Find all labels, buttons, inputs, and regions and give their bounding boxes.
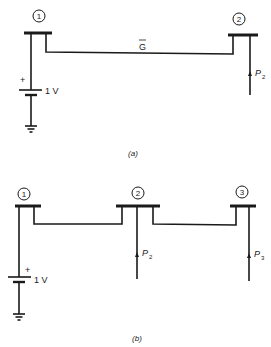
arrow-up-icon bbox=[135, 252, 139, 257]
bus-1-a: 1 bbox=[24, 10, 52, 33]
arrow-up-icon bbox=[248, 71, 252, 76]
svg-text:P: P bbox=[255, 68, 261, 78]
injection-p3-label: P 3 bbox=[254, 249, 265, 261]
bus-2-label: 2 bbox=[136, 189, 141, 198]
svg-text:3: 3 bbox=[261, 255, 265, 261]
svg-text:P: P bbox=[142, 248, 148, 258]
caption-a: (a) bbox=[128, 149, 138, 158]
svg-text:G: G bbox=[139, 42, 146, 52]
bus-1-label: 1 bbox=[22, 190, 27, 199]
battery-voltage-label: 1 V bbox=[34, 275, 48, 285]
ground-icon bbox=[13, 314, 25, 320]
panel-b: 1 + 1 V 2 P 2 bbox=[8, 186, 265, 343]
battery-plus-sign: + bbox=[25, 265, 30, 275]
caption-b: (b) bbox=[132, 334, 142, 343]
injection-p2-label: P 2 bbox=[255, 68, 266, 80]
panel-a: 1 + 1 V G 2 bbox=[19, 10, 266, 158]
conductance-label: G bbox=[139, 40, 146, 52]
bus-3-b: 3 bbox=[230, 186, 256, 206]
injection-p2-label: P 2 bbox=[142, 248, 153, 260]
bus-2-b: 2 bbox=[116, 187, 160, 206]
bus-1-b: 1 bbox=[15, 188, 41, 206]
svg-text:2: 2 bbox=[149, 254, 153, 260]
bus-3-label: 3 bbox=[240, 188, 245, 197]
bus-2-label: 2 bbox=[237, 15, 242, 24]
svg-text:P: P bbox=[254, 249, 260, 259]
ground-icon bbox=[25, 126, 37, 132]
battery-plus-sign: + bbox=[20, 75, 25, 85]
arrow-up-icon bbox=[247, 253, 251, 258]
voltage-source-a: + 1 V bbox=[19, 75, 59, 96]
line-2-3 bbox=[153, 206, 236, 225]
circuit-diagram: 1 + 1 V G 2 bbox=[0, 0, 271, 347]
line-1-2 bbox=[34, 206, 122, 224]
svg-text:2: 2 bbox=[262, 74, 266, 80]
voltage-source-b: + 1 V bbox=[8, 265, 48, 285]
bus-1-label: 1 bbox=[37, 12, 42, 21]
bus-2-a: 2 bbox=[228, 13, 258, 35]
battery-voltage-label: 1 V bbox=[45, 86, 59, 96]
